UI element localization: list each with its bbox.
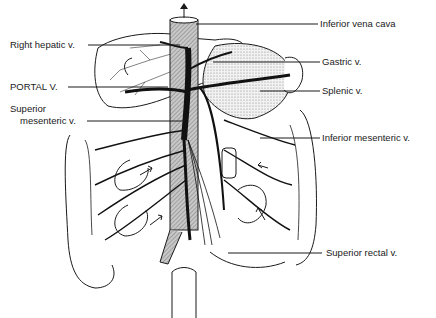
label-inferior-mesenteric-v: Inferior mesenteric v. (322, 132, 410, 143)
label-splenic-v: Splenic v. (322, 85, 362, 96)
label-superior-mesenteric-v-line1: Superior (10, 103, 46, 114)
flow-arrows (140, 162, 268, 225)
label-inferior-vena-cava: Inferior vena cava (320, 18, 396, 29)
label-portal-v: PORTAL V. (10, 81, 58, 92)
portal-venous-diagram: Inferior vena cava Right hepatic v. Gast… (0, 0, 436, 318)
label-superior-mesenteric-v-line2: mesenteric v. (20, 115, 76, 126)
sigmoid-colon (210, 252, 285, 267)
rectum (172, 268, 196, 318)
ascending-colon (65, 135, 114, 288)
label-superior-rectal-v: Superior rectal v. (326, 247, 397, 258)
label-right-hepatic-v: Right hepatic v. (10, 39, 75, 50)
label-gastric-v: Gastric v. (322, 56, 361, 67)
up-arrow-icon (180, 3, 188, 9)
